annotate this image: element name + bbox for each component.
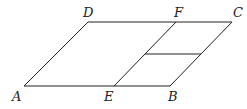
label-E: E bbox=[103, 89, 114, 104]
label-F: F bbox=[173, 5, 184, 20]
label-D: D bbox=[82, 5, 94, 20]
label-B: B bbox=[167, 89, 178, 104]
label-C: C bbox=[233, 5, 243, 20]
vertex-labels: AEBDFC bbox=[11, 5, 243, 104]
label-A: A bbox=[11, 89, 21, 104]
segment-DA bbox=[24, 22, 88, 86]
geometry-diagram: AEBDFC bbox=[0, 0, 247, 109]
segments bbox=[24, 22, 232, 86]
